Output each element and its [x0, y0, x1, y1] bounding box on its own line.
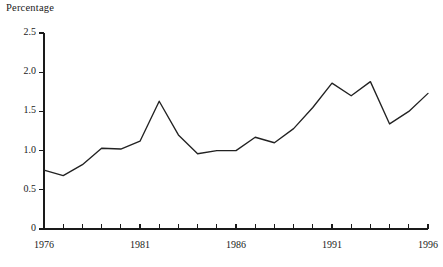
x-tick-label: 1996 [398, 239, 443, 250]
x-tick-label: 1986 [206, 239, 266, 250]
data-series-group [44, 82, 428, 176]
y-tick-label: 2.0 [24, 65, 37, 76]
x-tick-label: 1991 [302, 239, 362, 250]
y-tick-label: 1.0 [24, 144, 37, 155]
y-tick-label: 0 [31, 222, 36, 233]
axes [44, 33, 428, 229]
y-tick-label: 0.5 [24, 183, 37, 194]
y-axis-ticks [39, 33, 44, 229]
y-tick-label: 1.5 [24, 104, 37, 115]
x-tick-label: 1981 [110, 239, 170, 250]
x-axis-ticks [44, 224, 428, 229]
x-tick-label: 1976 [14, 239, 74, 250]
y-tick-label: 2.5 [24, 26, 37, 37]
data-line-percentage [44, 82, 428, 176]
